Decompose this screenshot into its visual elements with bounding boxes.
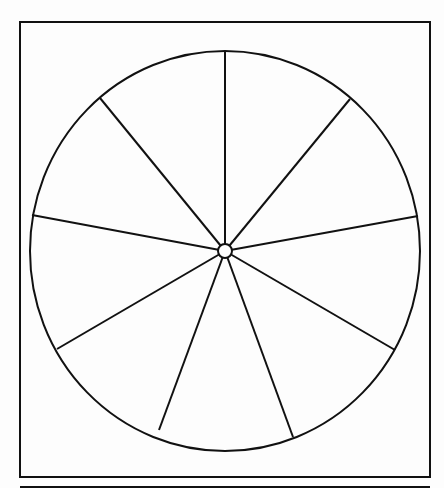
spoke-line-5 [225,251,293,437]
spoke-line-3 [225,216,418,251]
spoke-line-6 [159,251,225,430]
spoke-line-7 [57,251,225,349]
spoke-line-4 [225,251,395,350]
spoke-line-8 [32,215,225,251]
spoke-line-2 [225,99,350,251]
wheel-hub [218,244,232,258]
wheel-diagram [0,0,444,488]
spoke-line-9 [100,98,225,251]
